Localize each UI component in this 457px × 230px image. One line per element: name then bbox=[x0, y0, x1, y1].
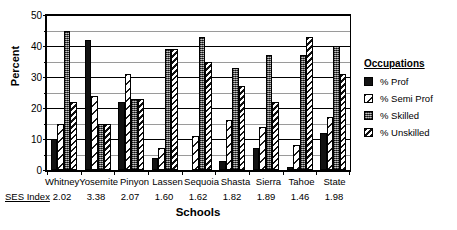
legend-item: % Unskilled bbox=[364, 127, 454, 138]
x-axis-category-label: Whitney bbox=[45, 176, 79, 187]
ses-index-label: SES Index bbox=[0, 191, 45, 202]
plot-area: 01020304050 bbox=[45, 14, 351, 172]
bar-group bbox=[182, 15, 216, 170]
x-axis-title: Schools bbox=[45, 206, 351, 218]
ses-index-value: 3.38 bbox=[79, 191, 113, 202]
bar bbox=[239, 86, 246, 170]
ses-index-value: 2.02 bbox=[45, 191, 79, 202]
bar-group bbox=[215, 15, 249, 170]
legend-swatch-icon bbox=[364, 111, 373, 120]
bar bbox=[171, 49, 178, 170]
y-axis-tick-label: 10 bbox=[31, 134, 42, 145]
bar bbox=[306, 37, 313, 170]
y-axis-tick-label: 30 bbox=[31, 72, 42, 83]
bar-group bbox=[283, 15, 317, 170]
x-axis-category-labels: WhitneyYosemitePinyonLassenSequoiaShasta… bbox=[45, 176, 351, 187]
ses-index-value: 1.98 bbox=[317, 191, 351, 202]
bar-group bbox=[148, 15, 182, 170]
legend-label: % Prof bbox=[380, 76, 409, 87]
ses-index-values: 2.023.382.071.601.621.821.891.461.98 bbox=[45, 191, 351, 202]
bar-group bbox=[114, 15, 148, 170]
ses-index-value: 1.82 bbox=[215, 191, 249, 202]
legend-items: % Prof% Semi Prof% Skilled% Unskilled bbox=[364, 76, 454, 138]
bar bbox=[138, 99, 145, 170]
legend-swatch-icon bbox=[364, 128, 373, 137]
legend: Occupations % Prof% Semi Prof% Skilled% … bbox=[364, 58, 454, 144]
y-axis-tick-label: 40 bbox=[31, 41, 42, 52]
ses-index-value: 1.62 bbox=[181, 191, 215, 202]
ses-index-value: 1.89 bbox=[249, 191, 283, 202]
y-axis-tick-label: 20 bbox=[31, 103, 42, 114]
legend-item: % Prof bbox=[364, 76, 454, 87]
bar bbox=[70, 102, 77, 170]
x-axis-category-label: Shasta bbox=[219, 176, 252, 187]
ses-index-value: 1.46 bbox=[283, 191, 317, 202]
y-axis-title: Percent bbox=[9, 31, 21, 101]
y-axis-tick-label: 50 bbox=[31, 10, 42, 21]
legend-label: % Skilled bbox=[380, 110, 419, 121]
legend-swatch-icon bbox=[364, 94, 373, 103]
x-axis-category-label: Yosemite bbox=[79, 176, 118, 187]
bar-group bbox=[47, 15, 81, 170]
legend-item: % Skilled bbox=[364, 110, 454, 121]
y-axis-tick-label: 0 bbox=[36, 165, 42, 176]
legend-title: Occupations bbox=[364, 58, 454, 69]
ses-index-row: SES Index 2.023.382.071.601.621.821.891.… bbox=[0, 191, 351, 202]
x-axis-category-label: Pinyon bbox=[118, 176, 151, 187]
bar bbox=[104, 124, 111, 171]
bar-group bbox=[81, 15, 115, 170]
bar-group bbox=[316, 15, 350, 170]
chart-figure: Percent 01020304050 WhitneyYosemitePinyo… bbox=[0, 0, 457, 230]
legend-label: % Unskilled bbox=[380, 127, 430, 138]
bar bbox=[272, 102, 279, 170]
legend-item: % Semi Prof bbox=[364, 93, 454, 104]
bar bbox=[340, 74, 347, 170]
x-axis-category-label: Sequoia bbox=[184, 176, 219, 187]
ses-index-value: 1.60 bbox=[147, 191, 181, 202]
legend-label: % Semi Prof bbox=[380, 93, 433, 104]
ses-index-value: 2.07 bbox=[113, 191, 147, 202]
x-axis-category-label: State bbox=[318, 176, 351, 187]
bar bbox=[205, 62, 212, 171]
x-axis-category-label: Lassen bbox=[151, 176, 184, 187]
bar-group bbox=[249, 15, 283, 170]
x-axis-category-label: Tahoe bbox=[285, 176, 318, 187]
bar-groups bbox=[47, 15, 350, 170]
x-axis-category-label: Sierra bbox=[252, 176, 285, 187]
legend-swatch-icon bbox=[364, 77, 373, 86]
